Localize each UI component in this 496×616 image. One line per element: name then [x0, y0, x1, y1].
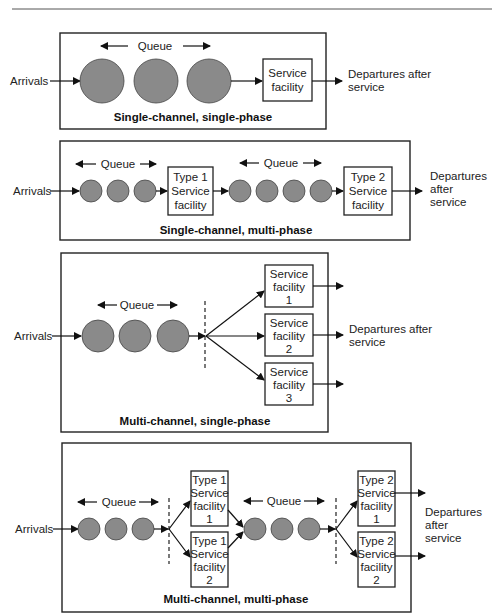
- facility-label: Service: [268, 67, 306, 79]
- departures-label: Departures: [425, 506, 482, 518]
- facility-label: Service: [190, 487, 228, 499]
- customer-circle: [80, 180, 102, 202]
- customer-circle: [310, 180, 332, 202]
- customer-circle: [134, 180, 156, 202]
- facility-label: facility: [273, 379, 305, 391]
- arrivals-label: Arrivals: [13, 185, 52, 197]
- facility-label: 2: [373, 574, 379, 586]
- customer-circle: [134, 59, 178, 103]
- facility-label: Service: [270, 268, 308, 280]
- departures-label: after: [430, 183, 453, 195]
- departures-label: service: [425, 532, 461, 544]
- queue-label: Queue: [101, 158, 136, 170]
- facility-label: facility: [361, 500, 393, 512]
- customer-circle: [107, 180, 129, 202]
- facility-label: facility: [175, 199, 207, 211]
- facility-label: Type 1: [192, 474, 227, 486]
- panel-multi-channel-multi-phase: Queue Queue Arrivals Type 1 Service faci…: [15, 443, 482, 612]
- queue-label: Queue: [138, 40, 173, 52]
- customer-circle: [82, 320, 114, 352]
- facility-label: 2: [286, 343, 292, 355]
- facility-label: 1: [373, 513, 379, 525]
- panel-multi-channel-single-phase: Queue Arrivals Service facility 1 Servic…: [14, 253, 432, 432]
- facility-label: facility: [352, 199, 384, 211]
- customer-circle: [187, 59, 231, 103]
- customer-circle: [157, 320, 189, 352]
- panel-single-channel-multi-phase: Queue Queue Arrivals Type 1 Service faci…: [13, 141, 487, 240]
- facility-label: Service: [349, 185, 387, 197]
- departures-label: Departures after: [348, 68, 431, 80]
- facility-label: 1: [286, 294, 292, 306]
- arrivals-label: Arrivals: [14, 330, 53, 342]
- facility-label: facility: [194, 561, 226, 573]
- queue-label: Queue: [102, 496, 137, 508]
- facility-label: 1: [206, 513, 212, 525]
- queue-label: Queue: [267, 495, 302, 507]
- departures-label: Departures after: [349, 323, 432, 335]
- panel-title: Single-channel, single-phase: [114, 111, 272, 123]
- customer-circle: [132, 518, 154, 540]
- panel-title: Multi-channel, single-phase: [120, 415, 271, 427]
- queue-label: Queue: [264, 157, 299, 169]
- panel-single-channel-single-phase: Queue Arrivals Service facility Departur…: [10, 33, 431, 129]
- facility-label: Service: [357, 548, 395, 560]
- facility-label: Service: [357, 487, 395, 499]
- customer-circle: [78, 518, 100, 540]
- customer-circle: [105, 518, 127, 540]
- customer-circle: [256, 180, 278, 202]
- arrivals-label: Arrivals: [10, 75, 49, 87]
- facility-label: facility: [273, 281, 305, 293]
- facility-label: Type 1: [192, 535, 227, 547]
- facility-label: Type 2: [359, 474, 394, 486]
- departures-label: service: [430, 196, 466, 208]
- departures-label: Departures: [430, 170, 487, 182]
- customer-circle: [244, 518, 266, 540]
- facility-label: Service: [270, 366, 308, 378]
- queuing-systems-diagram: Queue Arrivals Service facility Departur…: [0, 0, 496, 616]
- facility-label: facility: [361, 561, 393, 573]
- panel-title: Single-channel, multi-phase: [160, 224, 313, 236]
- facility-label: facility: [272, 81, 304, 93]
- customer-circle: [119, 320, 151, 352]
- customer-circle: [271, 518, 293, 540]
- customer-circle: [229, 180, 251, 202]
- arrivals-label: Arrivals: [15, 523, 54, 535]
- service-facility-box: [263, 59, 312, 101]
- customer-circle: [80, 59, 124, 103]
- facility-label: 2: [206, 574, 212, 586]
- customer-circle: [283, 180, 305, 202]
- facility-label: Service: [171, 185, 209, 197]
- facility-label: facility: [194, 500, 226, 512]
- departures-label: service: [349, 336, 385, 348]
- facility-label: Type 2: [351, 171, 386, 183]
- facility-label: Type 2: [359, 535, 394, 547]
- facility-label: 3: [286, 392, 292, 404]
- facility-label: Service: [190, 548, 228, 560]
- facility-label: facility: [273, 330, 305, 342]
- departures-label: service: [348, 81, 384, 93]
- panel-title: Multi-channel, multi-phase: [163, 593, 308, 605]
- customer-circle: [298, 518, 320, 540]
- facility-label: Service: [270, 317, 308, 329]
- facility-label: Type 1: [173, 171, 208, 183]
- departures-label: after: [425, 519, 448, 531]
- queue-label: Queue: [120, 299, 155, 311]
